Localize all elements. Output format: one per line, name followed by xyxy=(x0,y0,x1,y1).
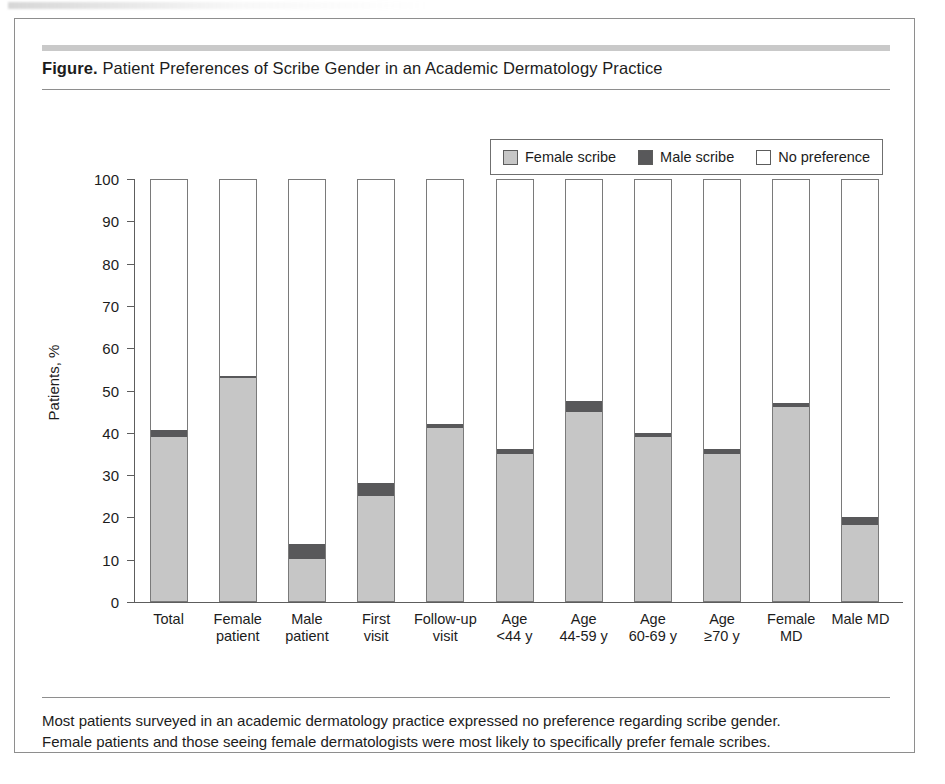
legend-swatch-icon xyxy=(503,150,518,165)
x-tick-label-line: <44 y xyxy=(480,628,549,645)
x-tick-label: Age60-69 y xyxy=(618,611,687,645)
x-tick-label-line: Age xyxy=(618,611,687,628)
legend-label: Male scribe xyxy=(660,149,734,165)
caption-rule xyxy=(42,697,890,698)
bar-segment-male-scribe xyxy=(220,376,256,378)
bar-segment-no-preference xyxy=(427,180,463,424)
x-tick-label-line: 60-69 y xyxy=(618,628,687,645)
y-tick-label: 30 xyxy=(85,468,119,483)
title-rule-top xyxy=(42,45,890,51)
bar-segment-female-scribe xyxy=(773,407,809,601)
x-tick-label-line: Male xyxy=(272,611,341,628)
chart-plot-area: Patients, % 0102030405060708090100TotalF… xyxy=(15,19,916,754)
y-tick-mark xyxy=(127,602,134,603)
bar-segment-female-scribe xyxy=(151,437,187,601)
bar-stack xyxy=(496,179,534,602)
y-tick-mark xyxy=(127,475,134,476)
bar-segment-female-scribe xyxy=(427,428,463,601)
bar-column xyxy=(703,179,741,602)
y-tick-mark xyxy=(127,560,134,561)
bar-segment-no-preference xyxy=(566,180,602,401)
y-tick-label: 70 xyxy=(85,299,119,314)
x-tick-label: Age<44 y xyxy=(480,611,549,645)
x-tick-label-line: Female xyxy=(203,611,272,628)
bar-column xyxy=(219,179,257,602)
y-tick-label: 90 xyxy=(85,214,119,229)
x-tick-label-line: patient xyxy=(272,628,341,645)
y-tick-label: 20 xyxy=(85,510,119,525)
bar-segment-male-scribe xyxy=(358,483,394,496)
x-tick-label-line: 44-59 y xyxy=(549,628,618,645)
bar-stack xyxy=(150,179,188,602)
bar-segment-male-scribe xyxy=(289,544,325,559)
bar-segment-male-scribe xyxy=(427,424,463,428)
x-tick-label-line: Age xyxy=(549,611,618,628)
bar-column xyxy=(565,179,603,602)
figure-title: Figure. Patient Preferences of Scribe Ge… xyxy=(42,57,892,79)
legend-item-2: No preference xyxy=(756,149,870,165)
title-rule-bottom xyxy=(42,89,890,90)
x-tick-label-line: Male MD xyxy=(826,611,895,628)
bar-segment-female-scribe xyxy=(842,525,878,601)
bar-segment-male-scribe xyxy=(842,517,878,525)
bar-column xyxy=(426,179,464,602)
bar-column xyxy=(772,179,810,602)
y-axis-line xyxy=(134,179,135,603)
x-tick-label-line: Female xyxy=(757,611,826,628)
bar-segment-no-preference xyxy=(635,180,671,433)
bar-segment-female-scribe xyxy=(497,454,533,601)
bar-stack xyxy=(703,179,741,602)
bar-segment-female-scribe xyxy=(289,559,325,601)
bar-segment-female-scribe xyxy=(358,496,394,601)
x-tick-label: Male MD xyxy=(826,611,895,628)
figure-card: Figure. Patient Preferences of Scribe Ge… xyxy=(14,18,915,753)
bar-stack xyxy=(288,179,326,602)
y-tick-label: 40 xyxy=(85,426,119,441)
legend-swatch-icon xyxy=(638,150,653,165)
bar-segment-male-scribe xyxy=(566,401,602,412)
x-tick-label-line: visit xyxy=(342,628,411,645)
caption-line-1: Most patients surveyed in an academic de… xyxy=(42,710,900,731)
y-tick-label: 100 xyxy=(85,172,119,187)
bar-stack xyxy=(357,179,395,602)
bar-segment-male-scribe xyxy=(635,433,671,437)
bar-segment-no-preference xyxy=(289,180,325,544)
bar-column xyxy=(288,179,326,602)
x-tick-label-line: Age xyxy=(480,611,549,628)
x-tick-label-line: patient xyxy=(203,628,272,645)
legend-item-0: Female scribe xyxy=(503,149,616,165)
bar-segment-no-preference xyxy=(497,180,533,449)
y-tick-mark xyxy=(127,264,134,265)
bar-segment-no-preference xyxy=(704,180,740,449)
bar-segment-male-scribe xyxy=(773,403,809,407)
bar-segment-no-preference xyxy=(842,180,878,517)
x-tick-label-line: MD xyxy=(757,628,826,645)
bar-column xyxy=(496,179,534,602)
y-tick-mark xyxy=(127,517,134,518)
bar-stack xyxy=(634,179,672,602)
x-tick-label: Firstvisit xyxy=(342,611,411,645)
bar-segment-no-preference xyxy=(220,180,256,376)
bar-column xyxy=(841,179,879,602)
x-tick-label: Total xyxy=(134,611,203,628)
y-tick-mark xyxy=(127,433,134,434)
y-tick-label: 10 xyxy=(85,553,119,568)
x-tick-label: FemaleMD xyxy=(757,611,826,645)
bar-segment-male-scribe xyxy=(497,449,533,453)
legend-label: No preference xyxy=(778,149,870,165)
bar-column xyxy=(634,179,672,602)
bar-segment-male-scribe xyxy=(704,449,740,453)
x-tick-label: Age44-59 y xyxy=(549,611,618,645)
bar-stack xyxy=(426,179,464,602)
bar-segment-no-preference xyxy=(151,180,187,430)
bar-stack xyxy=(841,179,879,602)
y-tick-mark xyxy=(127,306,134,307)
y-tick-mark xyxy=(127,179,134,180)
x-tick-label-line: Age xyxy=(687,611,756,628)
y-tick-mark xyxy=(127,221,134,222)
chart-legend: Female scribeMale scribeNo preference xyxy=(490,139,883,175)
legend-swatch-icon xyxy=(756,150,771,165)
bar-segment-female-scribe xyxy=(704,454,740,601)
bar-column xyxy=(150,179,188,602)
bar-segment-female-scribe xyxy=(220,378,256,601)
